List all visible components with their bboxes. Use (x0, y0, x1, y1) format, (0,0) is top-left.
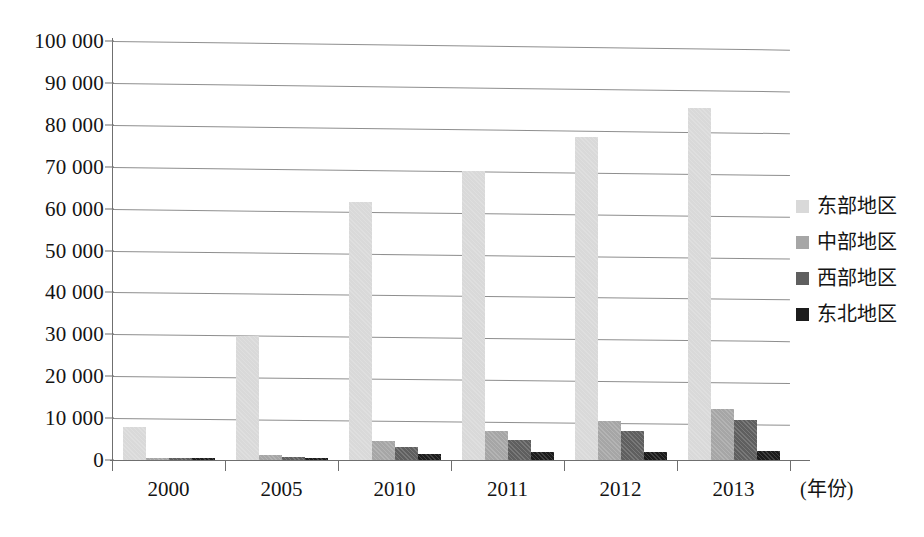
bar (349, 202, 372, 460)
y-axis-tick-label: 40 000 (0, 282, 104, 303)
legend-label: 西部地区 (817, 268, 897, 288)
y-axis-tick-mark (105, 208, 114, 209)
x-axis-tick-mark (451, 460, 452, 471)
x-axis-caption: (年份) (800, 478, 853, 500)
bar (734, 420, 757, 460)
x-axis-tick-label: 2012 (600, 478, 642, 500)
legend-item[interactable]: 西部地区 (796, 260, 922, 296)
y-axis-tick-label: 100 000 (0, 31, 104, 52)
x-axis-tick-mark (338, 460, 339, 471)
bar (462, 171, 485, 460)
x-axis-tick-mark (790, 460, 791, 471)
y-axis-tick-mark (105, 376, 114, 377)
x-axis-tick-mark (225, 460, 226, 471)
plot-area (112, 41, 790, 460)
x-axis-line (110, 460, 810, 461)
legend-swatch-icon (796, 236, 809, 249)
legend-swatch-icon (796, 272, 809, 285)
legend-item[interactable]: 东部地区 (796, 188, 922, 224)
legend-label: 中部地区 (817, 232, 897, 252)
bar (688, 108, 711, 460)
x-axis-tick-label: 2013 (713, 478, 755, 500)
y-axis-tick-label: 0 (0, 450, 104, 471)
y-axis-tick-label: 90 000 (0, 72, 104, 93)
bar (236, 336, 259, 460)
bar (757, 451, 780, 460)
y-axis-tick-mark (105, 124, 114, 125)
y-axis-tick-label: 60 000 (0, 198, 104, 219)
y-axis-tick-mark (105, 82, 114, 83)
bar (598, 421, 621, 460)
y-axis-tick-mark (105, 334, 114, 335)
bar (508, 440, 531, 460)
x-axis-tick-label: 2010 (374, 478, 416, 500)
y-axis-tick-mark (105, 41, 114, 42)
x-axis-tick-mark (677, 460, 678, 471)
x-axis-tick-mark (564, 460, 565, 471)
x-axis-tick-label: 2000 (148, 478, 190, 500)
legend-swatch-icon (796, 200, 809, 213)
chart-legend: 东部地区中部地区西部地区东北地区 (796, 188, 922, 332)
legend-label: 东部地区 (817, 196, 897, 216)
y-axis-tick-label: 10 000 (0, 408, 104, 429)
bar-chart: 010 00020 00030 00040 00050 00060 00070 … (0, 0, 924, 537)
gridline (112, 41, 790, 51)
legend-item[interactable]: 中部地区 (796, 224, 922, 260)
bar (621, 431, 644, 460)
y-axis-labels: 010 00020 00030 00040 00050 00060 00070 … (0, 0, 104, 537)
y-axis-tick-label: 20 000 (0, 366, 104, 387)
bar (711, 409, 734, 460)
y-axis-tick-mark (105, 250, 114, 251)
x-axis-tick-mark (112, 460, 113, 471)
bar (485, 431, 508, 460)
bar (644, 452, 667, 460)
y-axis-tick-mark (105, 292, 114, 293)
y-axis-tick-label: 50 000 (0, 240, 104, 261)
x-axis-tick-label: 2011 (487, 478, 528, 500)
y-axis-tick-mark (105, 418, 114, 419)
legend-swatch-icon (796, 308, 809, 321)
gridline (112, 83, 790, 92)
y-axis-tick-label: 80 000 (0, 114, 104, 135)
bar (395, 447, 418, 460)
legend-label: 东北地区 (817, 304, 897, 324)
bar (123, 427, 146, 460)
bar (575, 137, 598, 460)
y-axis-tick-label: 30 000 (0, 324, 104, 345)
bar (372, 441, 395, 460)
x-axis-tick-label: 2005 (261, 478, 303, 500)
legend-item[interactable]: 东北地区 (796, 296, 922, 332)
y-axis-tick-label: 70 000 (0, 156, 104, 177)
y-axis-tick-mark (105, 166, 114, 167)
bar (531, 452, 554, 460)
